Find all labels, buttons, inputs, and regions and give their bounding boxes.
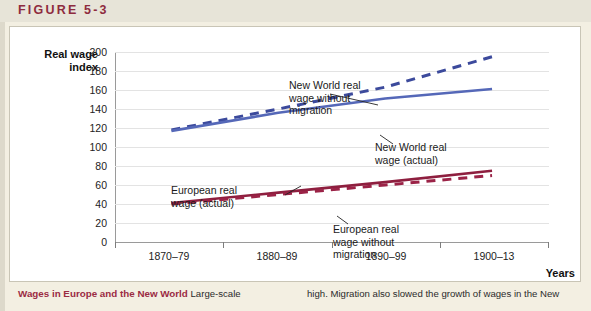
annotation-nw-nomig-line3: migration xyxy=(289,104,399,117)
figure-caption: Wages in Europe and the New World Large-… xyxy=(0,288,591,311)
y-tick-60: 60 xyxy=(67,179,107,191)
y-tick-140: 140 xyxy=(67,103,107,115)
x-label-1870-79: 1870–79 xyxy=(114,250,224,262)
annotation-nw-nomig-line1: New World real xyxy=(289,79,399,92)
chart-panel: Real wage index 200 180 160 140 120 100 … xyxy=(9,26,581,282)
y-tick-labels: 200 180 160 140 120 100 80 60 40 20 0 xyxy=(67,52,107,242)
y-tick-180: 180 xyxy=(67,65,107,77)
y-tick-80: 80 xyxy=(67,160,107,172)
x-axis-title: Years xyxy=(515,267,575,280)
annotation-eu-nomig-line1: European real xyxy=(333,223,438,236)
annotation-european-actual: European real wage (actual) xyxy=(171,184,276,209)
figure-container: FIGURE 5-3 Real wage index 200 180 160 1… xyxy=(0,0,591,311)
annotation-nw-actual-line1: New World real xyxy=(375,141,483,154)
annotation-nw-nomig-line2: wage without xyxy=(289,92,399,105)
annotation-eu-nomig-line2: wage without xyxy=(333,236,438,249)
y-tick-120: 120 xyxy=(67,122,107,134)
y-tick-200: 200 xyxy=(67,46,107,58)
annotation-nw-actual-line2: wage (actual) xyxy=(375,154,483,167)
x-label-1880-89: 1880–89 xyxy=(222,250,332,262)
y-tick-100: 100 xyxy=(67,141,107,153)
caption-right-column: high. Migration also slowed the growth o… xyxy=(307,288,583,300)
annotation-eu-actual-line2: wage (actual) xyxy=(171,197,276,210)
annotation-new-world-actual: New World real wage (actual) xyxy=(375,141,483,166)
annotation-new-world-without-migration: New World real wage without migration xyxy=(289,79,399,117)
caption-right-text: high. Migration also slowed the growth o… xyxy=(307,288,559,299)
annotation-european-without-migration: European real wage without migration xyxy=(333,223,438,261)
page-left-edge xyxy=(0,0,5,311)
y-tick-160: 160 xyxy=(67,84,107,96)
annotation-eu-actual-line1: European real xyxy=(171,184,276,197)
y-tick-40: 40 xyxy=(67,198,107,210)
annotation-eu-nomig-line3: migration xyxy=(333,248,438,261)
y-tick-20: 20 xyxy=(67,217,107,229)
caption-left-text: Large-scale xyxy=(191,288,241,299)
figure-number-label: FIGURE 5-3 xyxy=(18,3,109,17)
caption-left-column: Wages in Europe and the New World Large-… xyxy=(18,288,303,300)
y-tick-0: 0 xyxy=(67,236,107,248)
caption-heading: Wages in Europe and the New World xyxy=(18,288,188,299)
x-label-1900-13: 1900–13 xyxy=(439,250,549,262)
